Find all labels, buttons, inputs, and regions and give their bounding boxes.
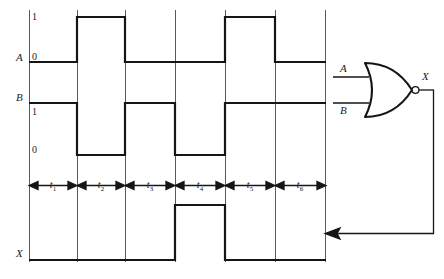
interval-label-t3-sub: 3 xyxy=(150,185,154,193)
interval-label-t6-sub: 6 xyxy=(300,185,304,193)
gridlines xyxy=(30,10,326,262)
interval-arrow-t1-head-left xyxy=(29,182,38,190)
interval-arrow-t5-head-left xyxy=(225,182,234,190)
interval-arrow-t2-head-left xyxy=(77,182,86,190)
interval-label-t4-sub: 4 xyxy=(200,185,204,193)
interval-arrow-t6-head-right xyxy=(317,182,326,190)
gate-input-a-label: A xyxy=(340,63,347,74)
nor-gate xyxy=(333,63,434,117)
interval-label-t2: t2 xyxy=(98,180,104,193)
signal-label-x: X xyxy=(16,248,23,259)
b-high-level-label: 1 xyxy=(32,107,37,117)
interval-label-t6: t6 xyxy=(297,180,303,193)
gate-body xyxy=(365,63,412,117)
signal-label-a: A xyxy=(16,52,23,63)
gate-output-label: X xyxy=(422,71,429,82)
interval-label-t1: t1 xyxy=(50,180,56,193)
gate-inversion-bubble-icon xyxy=(412,87,419,94)
interval-arrow-t3-head-left xyxy=(125,182,134,190)
interval-arrow-t6-head-left xyxy=(275,182,284,190)
signal-label-b: B xyxy=(16,92,23,103)
interval-label-t5-sub: 5 xyxy=(250,185,254,193)
waveform-b xyxy=(29,103,326,155)
interval-label-t4: t4 xyxy=(197,180,203,193)
a-high-level-label: 1 xyxy=(32,12,37,22)
waveform-a xyxy=(29,17,326,62)
interval-label-t1-sub: 1 xyxy=(53,185,57,193)
feedback-line xyxy=(335,90,434,234)
interval-arrows xyxy=(29,182,326,190)
interval-arrow-t4-head-left xyxy=(175,182,184,190)
interval-label-t5: t5 xyxy=(247,180,253,193)
a-low-level-label: 0 xyxy=(32,52,37,62)
gate-input-b-label: B xyxy=(340,105,347,116)
b-low-level-label: 0 xyxy=(32,145,37,155)
timing-diagram-canvas xyxy=(0,0,444,279)
interval-label-t2-sub: 2 xyxy=(101,185,105,193)
waveform-x xyxy=(29,205,326,260)
figure-root: 1 A 0 B 1 0 X t1 t2 t3 t4 t5 t6 A B X xyxy=(0,0,444,279)
interval-label-t3: t3 xyxy=(147,180,153,193)
